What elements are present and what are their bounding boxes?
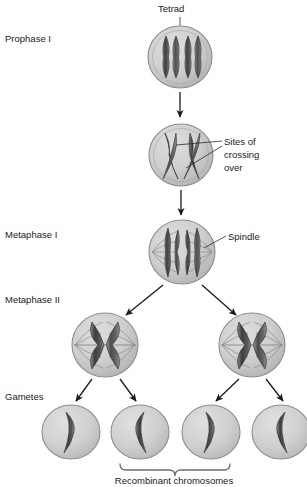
chromatid-4 — [194, 228, 200, 277]
caption-recombinant-chromosomes: Recombinant chromosomes — [115, 475, 234, 486]
arrow-left-to-gamete-2 — [120, 379, 136, 401]
gamete-cell-3 — [182, 405, 240, 459]
callout-label-spindle: Spindle — [228, 231, 260, 242]
cell-membrane — [149, 124, 213, 186]
gamete-cell-2 — [111, 405, 169, 459]
metaphase-ii-cell-right — [219, 313, 285, 377]
meiosis-figure: Prophase I Metaphase I Metaphase II Game… — [0, 0, 307, 487]
prophase-i-cell — [148, 26, 212, 88]
stage-label-prophase-i: Prophase I — [5, 33, 51, 44]
stage-label-metaphase-i: Metaphase I — [5, 229, 57, 240]
gamete-cell-4 — [252, 405, 307, 459]
chromatid-1 — [165, 228, 171, 277]
crossing-over-cell — [149, 124, 213, 186]
gamete-cell-1 — [42, 405, 100, 459]
stage-label-group: Prophase I Metaphase I Metaphase II Game… — [5, 33, 60, 402]
cell-membrane — [148, 26, 212, 88]
arrow-left-to-gamete-1 — [76, 379, 92, 401]
chromatid-4 — [195, 36, 201, 78]
callout-label-sites-of-crossing-over-line-1: Sites of — [224, 136, 256, 147]
arrow-metaphase-i-to-left — [126, 285, 163, 315]
arrow-right-to-gamete-4 — [266, 379, 283, 401]
metaphase-ii-cell-left — [72, 313, 138, 377]
callout-label-sites-of-crossing-over-line-2: crossing — [224, 149, 259, 160]
meiosis-diagram-canvas: Prophase I Metaphase I Metaphase II Game… — [0, 0, 307, 487]
callout-label-sites-of-crossing-over-line-3: over — [224, 162, 242, 173]
arrow-right-to-gamete-3 — [216, 379, 239, 401]
stage-label-metaphase-ii: Metaphase II — [5, 294, 60, 305]
stage-label-gametes: Gametes — [5, 391, 44, 402]
chromatid-2 — [173, 36, 179, 78]
chromatid-1 — [163, 36, 169, 78]
arrow-metaphase-i-to-right — [202, 285, 236, 315]
callout-label-tetrad: Tetrad — [158, 3, 184, 14]
metaphase-i-cell — [149, 220, 215, 284]
chromatid-3 — [185, 36, 191, 78]
